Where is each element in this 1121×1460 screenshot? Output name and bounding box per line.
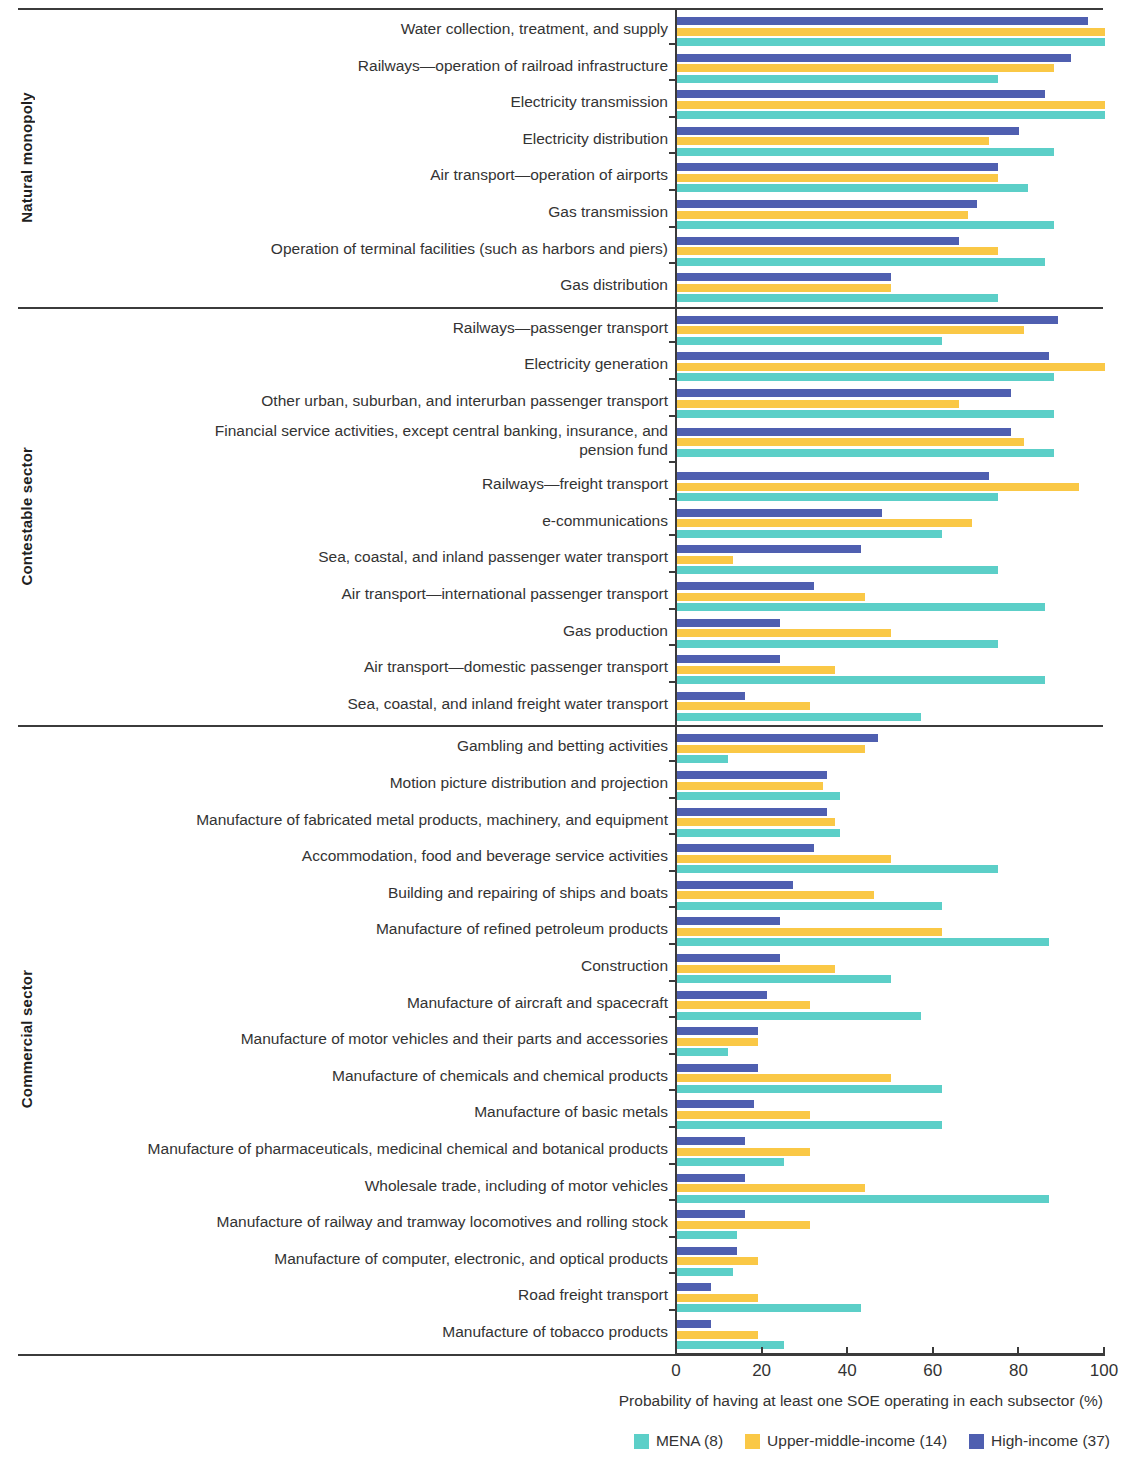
chart-row[interactable]: Electricity generation <box>0 347 1121 384</box>
bar-umic[interactable] <box>677 928 942 936</box>
chart-row[interactable]: Manufacture of tobacco products <box>0 1315 1121 1352</box>
bar-high[interactable] <box>677 54 1071 62</box>
bar-umic[interactable] <box>677 629 891 637</box>
bar-umic[interactable] <box>677 284 891 292</box>
chart-row[interactable]: Manufacture of pharmaceuticals, medicina… <box>0 1132 1121 1169</box>
bar-high[interactable] <box>677 1283 711 1291</box>
bar-umic[interactable] <box>677 1074 891 1082</box>
bar-mena[interactable] <box>677 148 1054 156</box>
chart-row[interactable]: Railways—passenger transport <box>0 311 1121 348</box>
bar-umic[interactable] <box>677 1331 758 1339</box>
bar-mena[interactable] <box>677 1085 942 1093</box>
chart-row[interactable]: e-communications <box>0 504 1121 541</box>
chart-row[interactable]: Manufacture of chemicals and chemical pr… <box>0 1059 1121 1096</box>
bar-mena[interactable] <box>677 184 1028 192</box>
bar-high[interactable] <box>677 1247 737 1255</box>
bar-mena[interactable] <box>677 1048 728 1056</box>
bar-umic[interactable] <box>677 64 1054 72</box>
chart-row[interactable]: Manufacture of basic metals <box>0 1095 1121 1132</box>
bar-high[interactable] <box>677 1320 711 1328</box>
chart-row[interactable]: Construction <box>0 949 1121 986</box>
bar-umic[interactable] <box>677 1294 758 1302</box>
chart-row[interactable]: Gambling and betting activities <box>0 729 1121 766</box>
bar-mena[interactable] <box>677 640 998 648</box>
legend-item[interactable]: Upper-middle-income (14) <box>745 1432 947 1450</box>
bar-mena[interactable] <box>677 449 1054 457</box>
bar-high[interactable] <box>677 352 1049 360</box>
bar-mena[interactable] <box>677 829 840 837</box>
bar-umic[interactable] <box>677 137 989 145</box>
bar-umic[interactable] <box>677 1001 810 1009</box>
bar-umic[interactable] <box>677 1184 865 1192</box>
bar-umic[interactable] <box>677 363 1105 371</box>
bar-umic[interactable] <box>677 1148 810 1156</box>
bar-umic[interactable] <box>677 855 891 863</box>
chart-row[interactable]: Road freight transport <box>0 1278 1121 1315</box>
legend-item[interactable]: High-income (37) <box>969 1432 1110 1450</box>
bar-high[interactable] <box>677 1137 745 1145</box>
bar-umic[interactable] <box>677 101 1105 109</box>
bar-mena[interactable] <box>677 258 1045 266</box>
bar-umic[interactable] <box>677 666 835 674</box>
bar-umic[interactable] <box>677 519 972 527</box>
bar-umic[interactable] <box>677 174 998 182</box>
bar-high[interactable] <box>677 1174 745 1182</box>
bar-high[interactable] <box>677 881 793 889</box>
chart-row[interactable]: Manufacture of railway and tramway locom… <box>0 1205 1121 1242</box>
chart-row[interactable]: Electricity distribution <box>0 122 1121 159</box>
bar-mena[interactable] <box>677 713 921 721</box>
bar-mena[interactable] <box>677 75 998 83</box>
bar-mena[interactable] <box>677 221 1054 229</box>
chart-row[interactable]: Manufacture of motor vehicles and their … <box>0 1022 1121 1059</box>
bar-high[interactable] <box>677 655 780 663</box>
bar-high[interactable] <box>677 200 977 208</box>
chart-row[interactable]: Operation of terminal facilities (such a… <box>0 232 1121 269</box>
chart-row[interactable]: Water collection, treatment, and supply <box>0 12 1121 49</box>
bar-umic[interactable] <box>677 211 968 219</box>
bar-mena[interactable] <box>677 902 942 910</box>
bar-mena[interactable] <box>677 676 1045 684</box>
chart-row[interactable]: Gas production <box>0 614 1121 651</box>
bar-mena[interactable] <box>677 1012 921 1020</box>
bar-umic[interactable] <box>677 818 835 826</box>
bar-mena[interactable] <box>677 865 998 873</box>
bar-umic[interactable] <box>677 965 835 973</box>
bar-umic[interactable] <box>677 593 865 601</box>
bar-mena[interactable] <box>677 410 1054 418</box>
chart-row[interactable]: Financial service activities, except cen… <box>0 421 1121 468</box>
bar-umic[interactable] <box>677 556 733 564</box>
bar-mena[interactable] <box>677 530 942 538</box>
chart-row[interactable]: Air transport—international passenger tr… <box>0 577 1121 614</box>
chart-row[interactable]: Manufacture of computer, electronic, and… <box>0 1242 1121 1279</box>
bar-mena[interactable] <box>677 1195 1049 1203</box>
legend-item[interactable]: MENA (8) <box>634 1432 723 1450</box>
bar-mena[interactable] <box>677 1341 784 1349</box>
bar-mena[interactable] <box>677 755 728 763</box>
bar-umic[interactable] <box>677 1221 810 1229</box>
chart-row[interactable]: Air transport—operation of airports <box>0 158 1121 195</box>
bar-umic[interactable] <box>677 745 865 753</box>
bar-umic[interactable] <box>677 1257 758 1265</box>
bar-high[interactable] <box>677 389 1011 397</box>
chart-row[interactable]: Accommodation, food and beverage service… <box>0 839 1121 876</box>
bar-umic[interactable] <box>677 247 998 255</box>
bar-mena[interactable] <box>677 938 1049 946</box>
bar-umic[interactable] <box>677 1111 810 1119</box>
bar-high[interactable] <box>677 316 1058 324</box>
bar-mena[interactable] <box>677 337 942 345</box>
bar-high[interactable] <box>677 1064 758 1072</box>
bar-high[interactable] <box>677 808 827 816</box>
chart-row[interactable]: Other urban, suburban, and interurban pa… <box>0 384 1121 421</box>
chart-row[interactable]: Manufacture of aircraft and spacecraft <box>0 986 1121 1023</box>
chart-row[interactable]: Wholesale trade, including of motor vehi… <box>0 1169 1121 1206</box>
bar-high[interactable] <box>677 163 998 171</box>
bar-umic[interactable] <box>677 326 1024 334</box>
bar-high[interactable] <box>677 90 1045 98</box>
bar-high[interactable] <box>677 771 827 779</box>
bar-high[interactable] <box>677 1100 754 1108</box>
bar-high[interactable] <box>677 844 814 852</box>
bar-high[interactable] <box>677 237 959 245</box>
bar-high[interactable] <box>677 734 878 742</box>
bar-high[interactable] <box>677 1027 758 1035</box>
bar-umic[interactable] <box>677 28 1105 36</box>
